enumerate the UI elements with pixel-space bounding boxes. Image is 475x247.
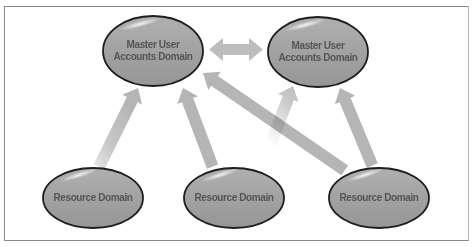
master-domain-2-label: Master User Accounts Domain — [278, 40, 357, 64]
master-domain-2-label-line1: Master User — [278, 40, 357, 52]
resource-domain-3-label-text: Resource Domain — [339, 192, 418, 204]
resource-domain-2-label: Resource Domain — [194, 192, 273, 204]
edge-master1-master2-bidirectional — [209, 38, 263, 61]
resource-domain-3-label: Resource Domain — [339, 192, 418, 204]
resource-domain-1-label: Resource Domain — [53, 192, 132, 204]
master-domain-1-label: Master User Accounts Domain — [113, 39, 192, 63]
edge-res2-master2 — [252, 82, 303, 168]
master-domain-1-label-line2: Accounts Domain — [113, 51, 192, 63]
master-domain-1-label-line1: Master User — [113, 39, 192, 51]
resource-domain-2-label-text: Resource Domain — [194, 192, 273, 204]
resource-domain-1-label-text: Resource Domain — [53, 192, 132, 204]
edge-res3-master2 — [330, 84, 383, 170]
master-domain-2-label-line2: Accounts Domain — [278, 52, 357, 64]
diagram-canvas — [0, 0, 475, 247]
